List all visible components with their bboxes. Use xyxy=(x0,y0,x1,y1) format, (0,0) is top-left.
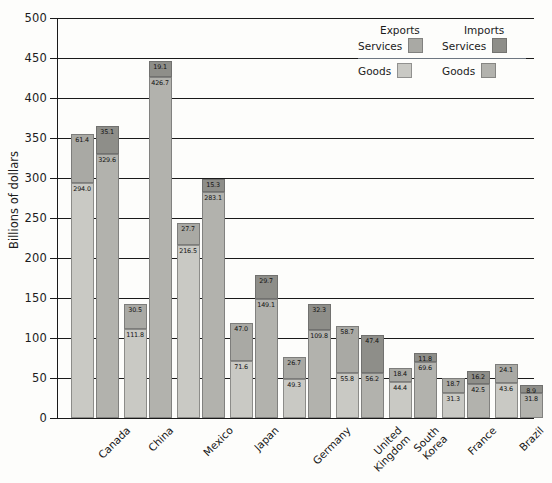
y-tick-label-350: 350 xyxy=(24,131,47,145)
bar-imports-china: 426.719.1 xyxy=(149,61,172,418)
legend-item-exports-goods: Goods xyxy=(358,63,442,78)
legend-label-exports-services: Services xyxy=(358,40,402,52)
chart-legend: Exports Imports Services Services xyxy=(358,24,526,81)
legend-item-imports-services: Services xyxy=(442,38,526,53)
legend-swatch-exports-goods xyxy=(397,63,412,78)
x-axis-label-south-korea: South Korea xyxy=(410,424,449,463)
bar-imports-china-services-segment: 19.1 xyxy=(149,61,172,76)
bar-exports-brazil: 43.624.1 xyxy=(495,364,518,418)
bar-exports-germany: 49.326.7 xyxy=(283,357,306,418)
bar-exports-canada-services-value: 61.4 xyxy=(72,137,93,143)
bar-exports-germany-goods-segment: 49.3 xyxy=(283,379,306,418)
bar-imports-south-korea-goods-segment: 69.6 xyxy=(414,362,437,418)
x-axis-label-japan: Japan xyxy=(251,424,280,453)
x-axis-label-mexico: Mexico xyxy=(200,424,234,458)
y-tick-label-250: 250 xyxy=(24,211,47,225)
legend-swatch-imports-services xyxy=(492,38,507,53)
bar-exports-france-goods-value: 31.3 xyxy=(443,396,464,402)
legend-item-exports-services: Services xyxy=(358,38,442,53)
x-axis-label-united-kingdom: United Kingdom xyxy=(362,424,412,474)
y-tick-label-0: 0 xyxy=(39,411,47,425)
y-tick-label-500: 500 xyxy=(24,11,47,25)
bar-imports-united-kingdom: 56.247.4 xyxy=(361,335,384,418)
y-tick-label-300: 300 xyxy=(24,171,47,185)
bar-group-mexico: 216.527.7283.115.3 xyxy=(174,18,206,418)
bar-exports-mexico: 216.527.7 xyxy=(177,223,200,418)
bar-exports-brazil-services-segment: 24.1 xyxy=(495,364,518,383)
legend-swatch-exports-services xyxy=(408,38,423,53)
bar-exports-france-services-segment: 18.7 xyxy=(442,378,465,393)
bar-imports-germany: 109.832.3 xyxy=(308,304,331,418)
bar-group-germany: 49.326.7109.832.3 xyxy=(280,18,312,418)
bar-imports-united-kingdom-goods-segment: 56.2 xyxy=(361,373,384,418)
bar-imports-mexico-services-value: 15.3 xyxy=(203,182,224,188)
bar-exports-china-goods-value: 111.8 xyxy=(125,332,146,338)
bar-imports-canada-services-value: 35.1 xyxy=(97,129,118,135)
bar-exports-canada-goods-value: 294.0 xyxy=(72,186,93,192)
bar-imports-canada-services-segment: 35.1 xyxy=(96,126,119,154)
bar-imports-canada-goods-value: 329.6 xyxy=(97,157,118,163)
legend-label-imports-goods: Goods xyxy=(442,65,475,77)
y-tick-label-200: 200 xyxy=(24,251,47,265)
bar-imports-china-goods-value: 426.7 xyxy=(150,80,171,86)
legend-header-imports: Imports xyxy=(442,24,526,36)
x-axis-label-france: France xyxy=(465,424,498,457)
bar-imports-france-goods-value: 42.5 xyxy=(468,387,489,393)
bar-exports-china-services-segment: 30.5 xyxy=(124,304,147,328)
y-tick-mark-500 xyxy=(50,18,57,19)
bar-imports-japan-goods-segment: 149.1 xyxy=(255,299,278,418)
y-tick-label-100: 100 xyxy=(24,331,47,345)
bar-exports-united-kingdom-services-segment: 58.7 xyxy=(336,326,359,373)
bar-exports-brazil-goods-value: 43.6 xyxy=(496,386,517,392)
bar-exports-france-services-value: 18.7 xyxy=(443,381,464,387)
bar-imports-mexico-goods-segment: 283.1 xyxy=(202,192,225,418)
bar-exports-south-korea-goods-segment: 44.4 xyxy=(389,382,412,418)
bar-exports-south-korea-services-value: 18.4 xyxy=(390,371,411,377)
bar-imports-south-korea: 69.611.8 xyxy=(414,353,437,418)
bar-imports-united-kingdom-goods-value: 56.2 xyxy=(362,376,383,382)
x-axis-label-canada: Canada xyxy=(95,424,132,461)
x-axis-label-china: China xyxy=(145,424,175,454)
y-tick-mark-0 xyxy=(50,418,57,419)
bar-imports-japan-services-value: 29.7 xyxy=(256,278,277,284)
bar-exports-mexico-services-value: 27.7 xyxy=(178,226,199,232)
legend-label-exports-goods: Goods xyxy=(358,65,391,77)
bar-imports-france-services-segment: 16.2 xyxy=(467,371,490,384)
bar-group-china: 111.830.5426.719.1 xyxy=(121,18,153,418)
legend-header-exports: Exports xyxy=(358,24,442,36)
y-tick-mark-300 xyxy=(50,178,57,179)
y-tick-mark-350 xyxy=(50,138,57,139)
legend-label-imports-services: Services xyxy=(442,40,486,52)
y-tick-mark-450 xyxy=(50,58,57,59)
bar-imports-france: 42.516.2 xyxy=(467,371,490,418)
bar-imports-canada-goods-segment: 329.6 xyxy=(96,154,119,418)
y-tick-mark-100 xyxy=(50,338,57,339)
x-axis-label-germany: Germany xyxy=(310,424,353,467)
bar-exports-japan-goods-value: 71.6 xyxy=(231,364,252,370)
bar-imports-china-goods-segment: 426.7 xyxy=(149,77,172,418)
legend-swatch-imports-goods xyxy=(481,63,496,78)
bar-imports-united-kingdom-services-segment: 47.4 xyxy=(361,335,384,373)
y-tick-label-150: 150 xyxy=(24,291,47,305)
bar-exports-south-korea: 44.418.4 xyxy=(389,368,412,418)
bar-exports-france-goods-segment: 31.3 xyxy=(442,393,465,418)
bar-imports-germany-goods-segment: 109.8 xyxy=(308,330,331,418)
bar-group-canada: 294.061.4329.635.1 xyxy=(68,18,100,418)
bar-imports-brazil-services-value: 8.9 xyxy=(521,388,542,394)
y-axis-title: Billions of dollars xyxy=(7,151,21,249)
bar-exports-united-kingdom-goods-value: 55.8 xyxy=(337,376,358,382)
bar-imports-mexico-goods-value: 283.1 xyxy=(203,195,224,201)
x-axis-label-brazil: Brazil xyxy=(516,424,545,453)
x-axis-line xyxy=(57,418,534,419)
y-tick-mark-400 xyxy=(50,98,57,99)
y-tick-label-400: 400 xyxy=(24,91,47,105)
bar-exports-japan-services-value: 47.0 xyxy=(231,326,252,332)
bar-imports-brazil-goods-segment: 31.8 xyxy=(520,393,543,418)
bar-exports-japan-goods-segment: 71.6 xyxy=(230,361,253,418)
y-tick-mark-150 xyxy=(50,298,57,299)
bar-exports-japan: 71.647.0 xyxy=(230,323,253,418)
bar-imports-united-kingdom-services-value: 47.4 xyxy=(362,338,383,344)
bar-exports-united-kingdom-goods-segment: 55.8 xyxy=(336,373,359,418)
bar-imports-germany-goods-value: 109.8 xyxy=(309,333,330,339)
bar-imports-mexico: 283.115.3 xyxy=(202,179,225,418)
